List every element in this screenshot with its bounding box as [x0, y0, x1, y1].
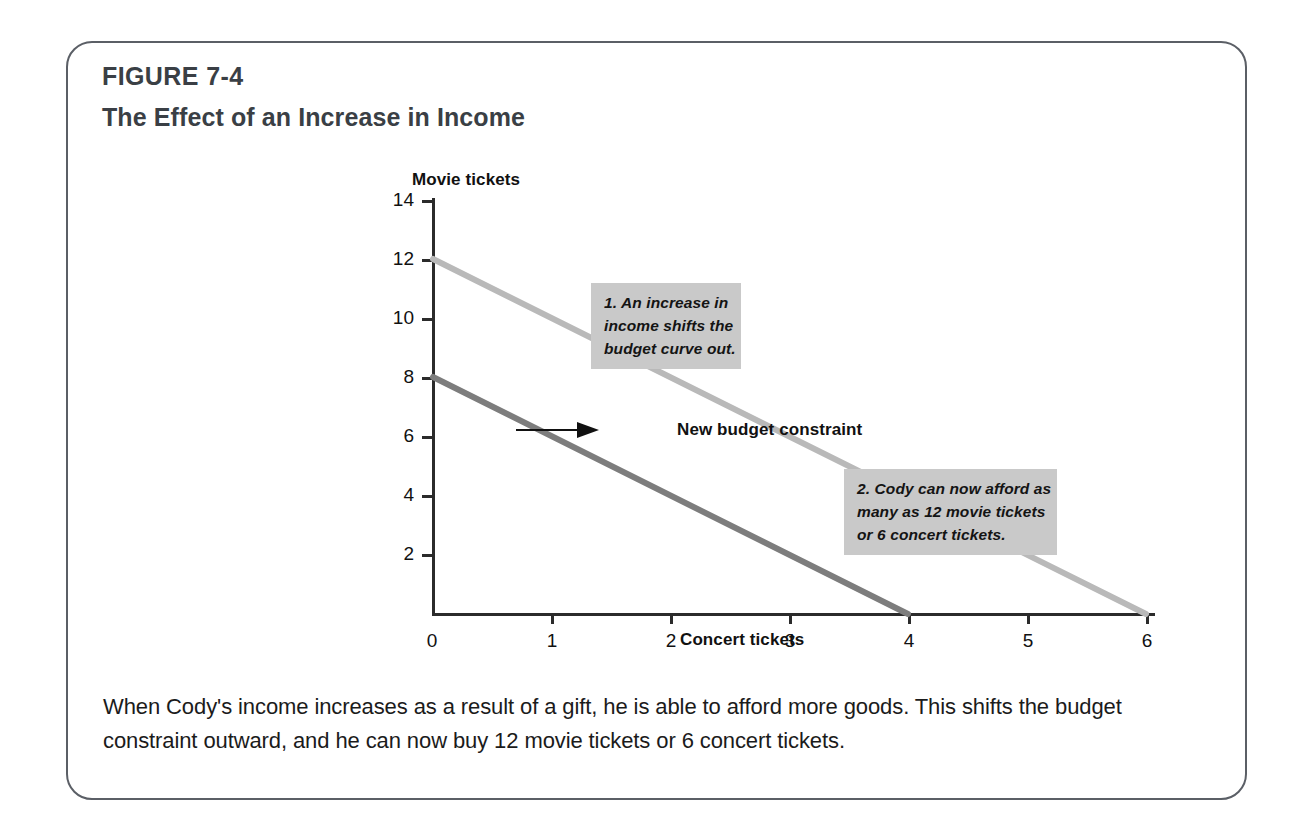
callout-1-line-3: budget curve out.: [604, 337, 729, 360]
figure-caption: When Cody's income increases as a result…: [103, 690, 1211, 758]
callout-box-1: 1. An increase in income shifts the budg…: [591, 283, 741, 369]
callout-2-line-3: or 6 concert tickets.: [857, 523, 1045, 546]
budget-lines-svg: [330, 160, 1210, 660]
figure-title: The Effect of an Increase in Income: [102, 103, 525, 132]
callout-2-line-2: many as 12 movie tickets: [857, 500, 1045, 523]
callout-2-line-1: 2. Cody can now afford as: [857, 477, 1045, 500]
new-budget-constraint-label: New budget constraint: [677, 420, 862, 440]
callout-1-line-2: income shifts the: [604, 314, 729, 337]
chart-plot-area: Movie tickets Concert tickets 14 12 10 8…: [330, 160, 1210, 660]
original-budget-constraint-line: [433, 377, 908, 614]
figure-number: FIGURE 7-4: [102, 62, 244, 91]
shift-arrow-icon: [515, 418, 599, 442]
callout-1-line-1: 1. An increase in: [604, 291, 729, 314]
callout-box-2: 2. Cody can now afford as many as 12 mov…: [844, 469, 1057, 555]
